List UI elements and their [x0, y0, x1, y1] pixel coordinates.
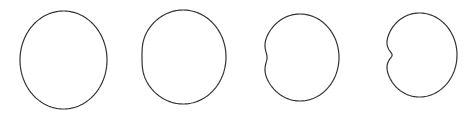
diagram-canvas — [0, 0, 475, 113]
shapes-svg — [0, 0, 475, 113]
cardioid-shape — [387, 13, 457, 97]
shallow-cardioid-shape — [265, 14, 339, 101]
near-circle-shape — [20, 11, 107, 109]
flattened-circle-shape — [142, 10, 226, 104]
